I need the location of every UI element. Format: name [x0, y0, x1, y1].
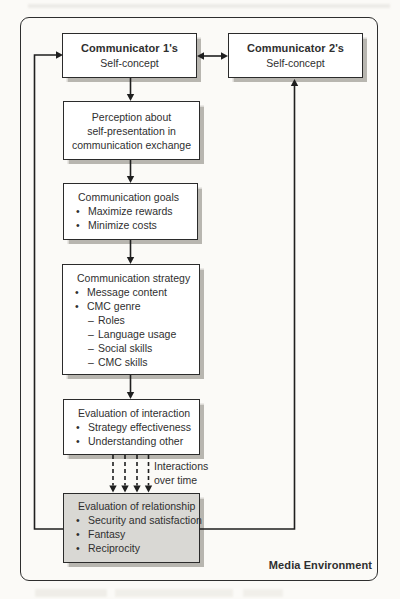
bullet-text: Minimize costs [88, 218, 157, 232]
sub-bullet-text: Social skills [98, 341, 152, 355]
list-item: • Message content [63, 285, 199, 299]
bullet-text: Fantasy [88, 527, 125, 541]
box-subtitle: Self-concept [63, 56, 196, 70]
box-communication-strategy: Communication strategy • Message content… [62, 264, 200, 375]
bullet-text: CMC genre [87, 299, 141, 313]
sub-list-item: – CMC skills [63, 355, 199, 369]
list-item: • Maximize rewards [64, 204, 197, 218]
bullet-dot-icon: • [76, 420, 88, 434]
scan-artifact-top [28, 4, 390, 8]
bullet-dot-icon: • [76, 218, 88, 232]
sub-list-item: – Language usage [63, 327, 199, 341]
box-title: Communicator 1's [63, 41, 196, 56]
interactions-label-line1: Interactions [154, 460, 208, 474]
bullet-dot-icon: • [75, 285, 87, 299]
sub-bullet-text: Roles [98, 313, 125, 327]
bullet-text: Maximize rewards [88, 204, 173, 218]
list-item: • Fantasy [64, 527, 199, 541]
list-item: • Security and satisfaction [64, 513, 199, 527]
dash-icon: – [88, 327, 98, 341]
interactions-over-time-label: Interactions over time [154, 460, 208, 487]
bullet-text: Security and satisfaction [88, 513, 202, 527]
bullet-dot-icon: • [76, 434, 88, 448]
box-title: Communication strategy [63, 271, 199, 285]
media-environment-label: Media Environment [269, 559, 372, 571]
bullet-text: Strategy effectiveness [88, 420, 191, 434]
sub-list-item: – Roles [63, 313, 199, 327]
sub-bullet-text: CMC skills [98, 355, 148, 369]
bullet-dot-icon: • [76, 513, 88, 527]
interactions-label-line2: over time [154, 474, 208, 488]
box-evaluation-interaction: Evaluation of interaction • Strategy eff… [63, 399, 200, 455]
box-evaluation-relationship: Evaluation of relationship • Security an… [63, 493, 200, 563]
sub-bullet-text: Language usage [98, 327, 176, 341]
dash-icon: – [88, 313, 98, 327]
figure-caption-ghost [243, 589, 283, 597]
bullet-dot-icon: • [76, 527, 88, 541]
bullet-text: Understanding other [88, 434, 183, 448]
bullet-text: Reciprocity [88, 541, 140, 555]
box-title: Communicator 2's [229, 41, 362, 56]
figure-caption-ghost [115, 589, 233, 597]
bullet-dot-icon: • [75, 299, 87, 313]
box-communicator-2: Communicator 2's Self-concept [228, 33, 363, 78]
figure-caption-ghost [35, 589, 107, 597]
sub-list-item: – Social skills [63, 341, 199, 355]
figure-canvas: Communicator 1's Self-concept Communicat… [0, 0, 400, 599]
list-item: • CMC genre [63, 299, 199, 313]
box-text-line: self-presentation in [64, 124, 199, 138]
box-title: Evaluation of relationship [64, 499, 199, 513]
list-item: • Strategy effectiveness [64, 420, 199, 434]
box-text-line: Perception about [64, 110, 199, 124]
bullet-dot-icon: • [76, 204, 88, 218]
box-title: Communication goals [64, 190, 197, 204]
box-text-line: communication exchange [64, 138, 199, 152]
box-subtitle: Self-concept [229, 56, 362, 70]
list-item: • Minimize costs [64, 218, 197, 232]
box-perception: Perception about self-presentation in co… [63, 101, 200, 160]
list-item: • Reciprocity [64, 541, 199, 555]
dash-icon: – [88, 355, 98, 369]
box-communication-goals: Communication goals • Maximize rewards •… [63, 183, 198, 240]
dash-icon: – [88, 341, 98, 355]
bullet-text: Message content [87, 285, 167, 299]
box-communicator-1: Communicator 1's Self-concept [62, 33, 197, 78]
list-item: • Understanding other [64, 434, 199, 448]
box-title: Evaluation of interaction [64, 406, 199, 420]
bullet-dot-icon: • [76, 541, 88, 555]
